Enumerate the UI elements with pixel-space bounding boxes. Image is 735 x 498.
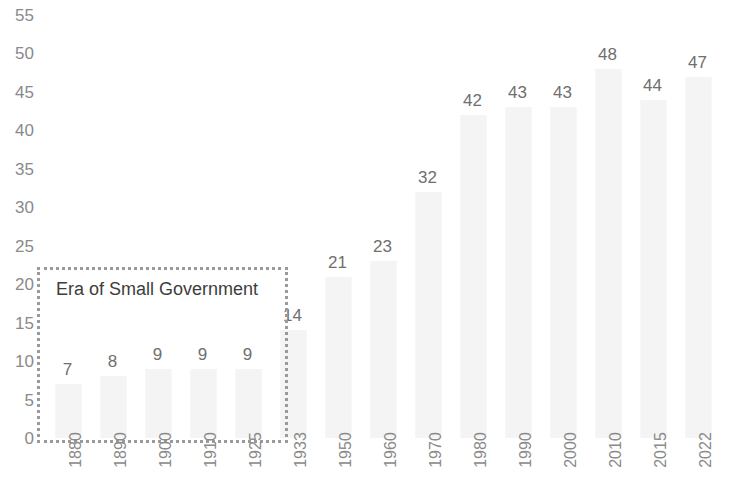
x-axis-tick-text: 2015 — [653, 432, 669, 468]
bar-value-label: 42 — [450, 92, 495, 109]
x-axis-tick-label: 1933 — [270, 446, 315, 498]
bar[interactable] — [505, 107, 532, 438]
bar-value-label: 7 — [45, 361, 90, 378]
y-axis-tick-label: 55 — [15, 7, 34, 24]
bar-slot: 7 — [45, 0, 90, 446]
y-axis-tick-label: 20 — [15, 276, 34, 293]
bar-slot: 8 — [90, 0, 135, 446]
bar[interactable] — [460, 115, 487, 438]
x-axis-tick-label: 1925 — [225, 446, 270, 498]
x-axis-tick-label: 1900 — [135, 446, 180, 498]
bar-value-label: 48 — [585, 46, 630, 63]
bar-slot: 14 — [270, 0, 315, 446]
bar-slot: 43 — [540, 0, 585, 446]
bar-value-label: 8 — [90, 353, 135, 370]
bar-value-label: 47 — [675, 54, 720, 71]
y-axis-tick-label: 50 — [15, 45, 34, 62]
x-axis-tick-text: 1970 — [428, 432, 444, 468]
bar-value-label: 21 — [315, 254, 360, 271]
bar-slot: 32 — [405, 0, 450, 446]
x-axis-tick-label: 1970 — [405, 446, 450, 498]
bar[interactable] — [280, 330, 307, 438]
bar-value-label: 23 — [360, 238, 405, 255]
x-axis-tick-label: 1890 — [90, 446, 135, 498]
bar[interactable] — [325, 277, 352, 439]
x-axis-tick-label: 2010 — [585, 446, 630, 498]
bar[interactable] — [100, 376, 127, 438]
bar-slot: 21 — [315, 0, 360, 446]
bar-value-label: 32 — [405, 169, 450, 186]
y-axis-tick-label: 40 — [15, 122, 34, 139]
bar-value-label: 14 — [270, 307, 315, 324]
era-annotation-label: Era of Small Government — [56, 280, 258, 298]
bar-value-label: 43 — [540, 84, 585, 101]
x-axis: 1880189019001910192519331950196019701980… — [40, 446, 735, 498]
x-axis-tick-label: 2022 — [675, 446, 720, 498]
x-axis-tick-text: 2010 — [608, 432, 624, 468]
bar[interactable] — [550, 107, 577, 438]
bar-slot: 9 — [225, 0, 270, 446]
bar-slot: 9 — [180, 0, 225, 446]
y-axis-tick-label: 0 — [25, 430, 34, 447]
bar-slot: 42 — [450, 0, 495, 446]
x-axis-tick-text: 1890 — [113, 432, 129, 468]
bar[interactable] — [145, 369, 172, 438]
x-axis-tick-text: 1880 — [68, 432, 84, 468]
x-axis-tick-label: 1880 — [45, 446, 90, 498]
bar-value-label: 44 — [630, 77, 675, 94]
y-axis-tick-label: 15 — [15, 315, 34, 332]
bar[interactable] — [235, 369, 262, 438]
y-axis-tick-label: 25 — [15, 238, 34, 255]
y-axis-tick-label: 10 — [15, 353, 34, 370]
bar[interactable] — [370, 261, 397, 438]
x-axis-tick-label: 1980 — [450, 446, 495, 498]
x-axis-tick-text: 1933 — [293, 432, 309, 468]
y-axis-tick-label: 30 — [15, 199, 34, 216]
x-axis-tick-label: 2015 — [630, 446, 675, 498]
bar-slot: 44 — [630, 0, 675, 446]
bar-chart: 0510152025303540455055 78999142123324243… — [0, 0, 735, 498]
bar-value-label: 9 — [225, 346, 270, 363]
x-axis-tick-text: 1900 — [158, 432, 174, 468]
bar[interactable] — [190, 369, 217, 438]
bar-slot: 48 — [585, 0, 630, 446]
bar-slot: 23 — [360, 0, 405, 446]
bar[interactable] — [415, 192, 442, 438]
bar-value-label: 9 — [180, 346, 225, 363]
bar-value-label: 9 — [135, 346, 180, 363]
x-axis-tick-text: 2022 — [698, 432, 714, 468]
x-axis-tick-label: 1990 — [495, 446, 540, 498]
x-axis-tick-text: 1925 — [248, 432, 264, 468]
y-axis: 0510152025303540455055 — [0, 0, 40, 460]
x-axis-tick-label: 1910 — [180, 446, 225, 498]
y-axis-tick-label: 45 — [15, 84, 34, 101]
x-axis-tick-text: 1910 — [203, 432, 219, 468]
x-axis-tick-text: 2000 — [563, 432, 579, 468]
y-axis-tick-label: 35 — [15, 161, 34, 178]
x-axis-tick-label: 1950 — [315, 446, 360, 498]
bar-slot: 47 — [675, 0, 720, 446]
x-axis-tick-label: 1960 — [360, 446, 405, 498]
bar[interactable] — [595, 69, 622, 438]
bar[interactable] — [640, 100, 667, 438]
x-axis-tick-text: 1960 — [383, 432, 399, 468]
y-axis-tick-label: 5 — [25, 392, 34, 409]
bar[interactable] — [55, 384, 82, 438]
bar-slot: 9 — [135, 0, 180, 446]
x-axis-tick-text: 1980 — [473, 432, 489, 468]
bar[interactable] — [685, 77, 712, 438]
x-axis-tick-label: 2000 — [540, 446, 585, 498]
x-axis-tick-text: 1950 — [338, 432, 354, 468]
x-axis-tick-text: 1990 — [518, 432, 534, 468]
bar-slot: 43 — [495, 0, 540, 446]
plot-area: 7899914212332424343484447 — [40, 0, 735, 446]
bar-value-label: 43 — [495, 84, 540, 101]
